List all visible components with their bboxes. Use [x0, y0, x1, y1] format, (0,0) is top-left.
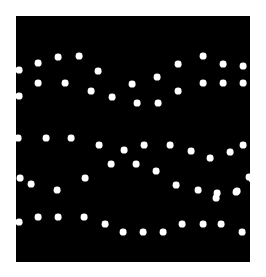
scatter-plot-area: [16, 16, 250, 262]
image-canvas: [0, 0, 266, 277]
